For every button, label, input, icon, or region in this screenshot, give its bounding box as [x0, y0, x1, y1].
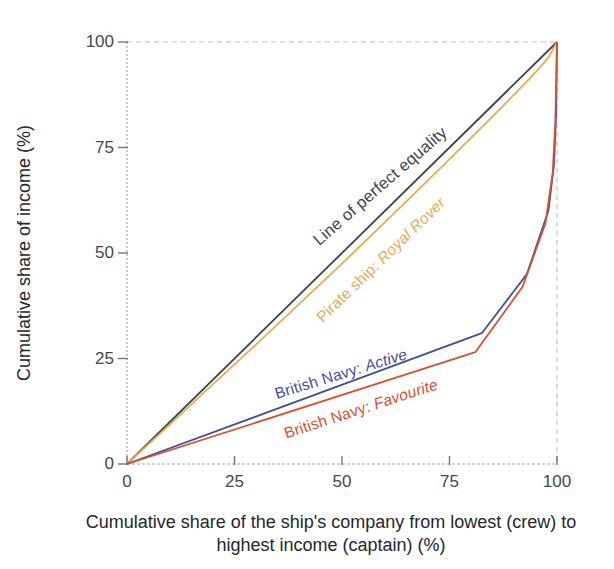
x-tick-label-50: 50 — [333, 472, 352, 492]
plot-area-svg — [0, 0, 614, 569]
series-line-perfect-equality — [127, 42, 557, 464]
y-tick-label-50: 50 — [52, 243, 114, 263]
y-tick-label-25: 25 — [52, 349, 114, 369]
y-tick-label-100: 100 — [52, 32, 114, 52]
y-tick-label-75: 75 — [52, 138, 114, 158]
lorenz-curve-chart: 100 75 50 25 0 0 25 50 75 100 Line of pe… — [0, 0, 614, 569]
y-tick-label-0: 0 — [52, 454, 114, 474]
x-axis-title-line2: highest income (captain) (%) — [48, 534, 614, 557]
x-tick-label-75: 75 — [440, 472, 459, 492]
y-axis-title: Cumulative share of income (%) — [14, 125, 35, 381]
x-axis-title: Cumulative share of the ship's company f… — [48, 511, 614, 557]
x-axis-title-line1: Cumulative share of the ship's company f… — [48, 511, 614, 534]
x-tick-label-25: 25 — [225, 472, 244, 492]
x-tick-label-0: 0 — [122, 472, 131, 492]
x-tick-label-100: 100 — [543, 472, 571, 492]
